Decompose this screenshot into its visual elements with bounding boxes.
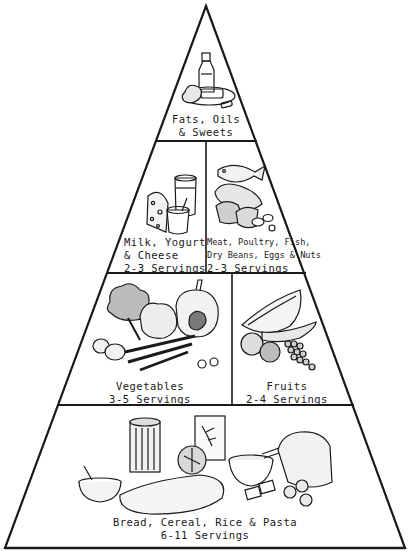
fruits-servings: 2-4 Servings — [232, 393, 342, 406]
grains-illustration — [79, 416, 332, 514]
protein-illustration — [215, 165, 275, 231]
fats-name-line-2: & Sweets — [156, 126, 256, 139]
label-grains: Bread, Cereal, Rice & Pasta 6-11 Serving… — [80, 516, 330, 542]
protein-name-line-1: Meat, Poultry, Fish, — [207, 236, 307, 249]
fruits-name: Fruits — [232, 380, 342, 393]
vegetables-illustration — [93, 280, 218, 370]
protein-servings: 2-3 Servings — [207, 262, 307, 275]
dairy-name-line-2: & Cheese — [124, 249, 206, 262]
label-vegetables: Vegetables 3-5 Servings — [100, 380, 200, 406]
vegetables-name: Vegetables — [100, 380, 200, 393]
protein-name-line-2: Dry Beans, Eggs & Nuts — [207, 249, 307, 262]
label-dairy: Milk, Yogurt & Cheese 2-3 Servings — [124, 236, 206, 275]
vegetables-servings: 3-5 Servings — [100, 393, 200, 406]
grains-servings: 6-11 Servings — [80, 529, 330, 542]
fats-name-line-1: Fats, Oils — [156, 113, 256, 126]
label-fruits: Fruits 2-4 Servings — [232, 380, 342, 406]
food-pyramid — [0, 0, 410, 552]
dairy-servings: 2-3 Servings — [124, 262, 206, 275]
label-fats: Fats, Oils & Sweets — [156, 113, 256, 139]
grains-name: Bread, Cereal, Rice & Pasta — [80, 516, 330, 529]
dairy-name-line-1: Milk, Yogurt — [124, 236, 206, 249]
label-protein: Meat, Poultry, Fish, Dry Beans, Eggs & N… — [207, 236, 307, 275]
dairy-illustration — [147, 175, 196, 234]
fruits-illustration — [241, 290, 316, 370]
